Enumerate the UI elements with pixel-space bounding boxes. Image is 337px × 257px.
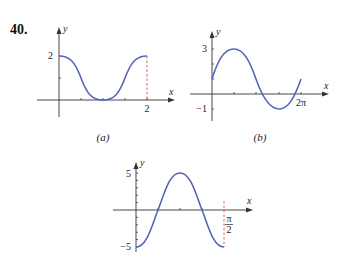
x-axis-arrow-icon (168, 98, 175, 103)
y-axis-arrow-icon (134, 162, 139, 169)
x-axis-label: x (246, 195, 252, 206)
curve-a (59, 56, 147, 100)
y-axis-label: y (139, 157, 145, 168)
caption-b: (b) (254, 131, 267, 144)
y-axis-label: y (215, 26, 221, 37)
caption-a: (a) (97, 131, 110, 144)
x-tick-label: 2 (145, 103, 150, 114)
graph-b: 2π 3 −1 x y (b) (190, 26, 329, 144)
y-tick-label-min: −5 (120, 241, 131, 252)
problem-number: 40. (10, 22, 28, 37)
x-tick-label-pi-over-2: π 2 (225, 213, 233, 235)
svg-text:2: 2 (227, 224, 232, 235)
x-axis-label: x (168, 86, 174, 97)
y-tick-label-min: −1 (196, 103, 207, 114)
x-tick-label: 2π (296, 97, 306, 108)
y-axis-arrow-icon (57, 27, 62, 34)
x-axis-arrow-icon (322, 92, 329, 97)
graph-a: 2 2 x y (a) (37, 23, 175, 144)
graph-c: π 2 5 −5 x y (113, 157, 253, 252)
figure-canvas: 40. 2 2 x y (a) 2π 3 −1 (0, 0, 337, 257)
y-tick-label-max: 3 (202, 43, 207, 54)
x-axis-label: x (323, 80, 329, 91)
curve-b (212, 49, 301, 109)
x-axis-arrow-icon (246, 208, 253, 213)
y-tick-label: 2 (48, 50, 53, 61)
y-axis-arrow-icon (210, 31, 215, 38)
svg-text:π: π (226, 213, 231, 224)
y-axis-label: y (62, 23, 68, 34)
y-tick-label-max: 5 (126, 168, 131, 179)
